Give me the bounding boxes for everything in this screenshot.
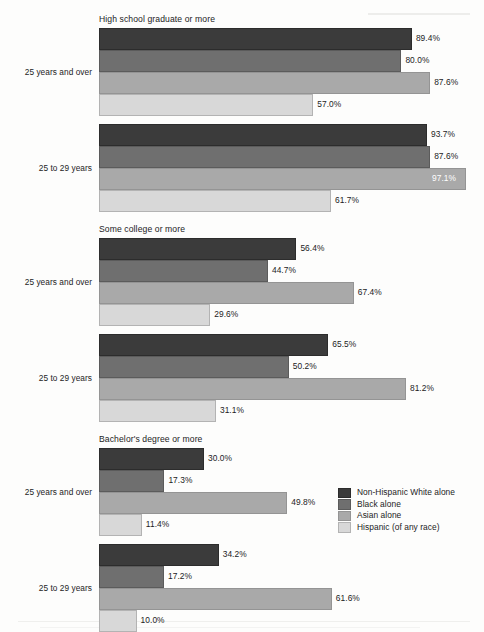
scan-artifact-bottom xyxy=(18,621,470,622)
bar-value-label: 10.0% xyxy=(141,615,165,625)
age-group-label: 25 to 29 years xyxy=(0,583,92,593)
bar xyxy=(99,304,210,326)
age-group-label: 25 years and over xyxy=(0,487,92,497)
bar-value-label: 17.3% xyxy=(168,475,192,485)
bar-value-label: 29.6% xyxy=(214,309,238,319)
bar xyxy=(99,334,328,356)
bar xyxy=(99,146,430,168)
bar xyxy=(99,190,331,212)
bar-value-label: 87.6% xyxy=(434,151,458,161)
bar xyxy=(99,260,268,282)
bar xyxy=(99,168,466,190)
legend-label: Hispanic (of any race) xyxy=(357,522,440,532)
bar xyxy=(99,400,216,422)
bar-value-label: 89.4% xyxy=(416,33,440,43)
age-group-label: 25 to 29 years xyxy=(0,373,92,383)
bar xyxy=(99,378,406,400)
age-group-label: 25 years and over xyxy=(0,277,92,287)
bar xyxy=(99,610,137,632)
legend-color-swatch xyxy=(338,488,351,499)
bar-value-label: 81.2% xyxy=(410,383,434,393)
bar-value-label: 97.1% xyxy=(432,173,456,183)
bar-value-label: 61.7% xyxy=(335,195,359,205)
age-group-label: 25 to 29 years xyxy=(0,163,92,173)
bar-value-label: 80.0% xyxy=(405,55,429,65)
scan-artifact-bottom-secondary xyxy=(40,627,420,628)
bar-value-label: 30.0% xyxy=(208,453,232,463)
bar xyxy=(99,72,430,94)
age-group-label: 25 years and over xyxy=(0,67,92,77)
bar xyxy=(99,356,289,378)
bar-value-label: 57.0% xyxy=(317,99,341,109)
panel-title: Some college or more xyxy=(99,224,185,234)
bar xyxy=(99,492,287,514)
bar-value-label: 50.2% xyxy=(293,361,317,371)
bar xyxy=(99,544,219,566)
legend-label: Non-Hispanic White alone xyxy=(357,487,455,497)
scan-artifact-top xyxy=(368,13,470,15)
bar xyxy=(99,448,204,470)
bar xyxy=(99,238,296,260)
bar-value-label: 31.1% xyxy=(220,405,244,415)
bar xyxy=(99,514,142,536)
bar-value-label: 56.4% xyxy=(300,243,324,253)
bar xyxy=(99,124,427,146)
legend-color-swatch xyxy=(338,499,351,510)
bar xyxy=(99,94,313,116)
panel-title: High school graduate or more xyxy=(99,14,215,24)
bar-value-label: 34.2% xyxy=(223,549,247,559)
bar xyxy=(99,470,164,492)
bar-value-label: 11.4% xyxy=(146,519,169,529)
bar-value-label: 93.7% xyxy=(431,129,455,139)
bar-value-label: 87.6% xyxy=(434,77,458,87)
bar xyxy=(99,566,164,588)
panel-title: Bachelor's degree or more xyxy=(99,434,203,444)
bar-value-label: 65.5% xyxy=(332,339,356,349)
legend-color-swatch xyxy=(338,522,351,533)
bar xyxy=(99,588,332,610)
bar-value-label: 49.8% xyxy=(291,497,315,507)
legend-label: Asian alone xyxy=(357,510,401,520)
bar xyxy=(99,282,354,304)
bar-value-label: 44.7% xyxy=(272,265,296,275)
legend-label: Black alone xyxy=(357,499,401,509)
bar-value-label: 61.6% xyxy=(336,593,360,603)
bar xyxy=(99,28,412,50)
bar xyxy=(99,50,401,72)
legend-color-swatch xyxy=(338,511,351,522)
bar-value-label: 17.2% xyxy=(168,571,192,581)
bar-value-label: 67.4% xyxy=(358,287,382,297)
